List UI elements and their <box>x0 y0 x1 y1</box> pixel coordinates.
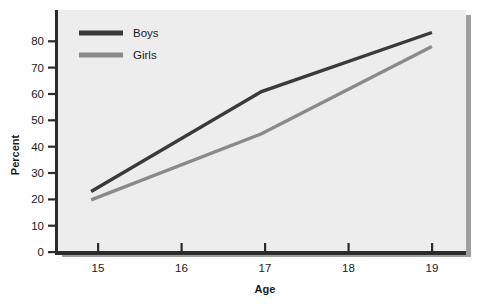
y-axis-ticks <box>48 40 56 253</box>
y-tick-label-80: 80 <box>31 35 44 47</box>
y-tick-label-70: 70 <box>31 62 44 74</box>
x-tick-label-15: 15 <box>92 262 105 274</box>
x-tick-label-16: 16 <box>175 262 188 274</box>
y-tick-label-60: 60 <box>31 88 44 100</box>
y-tick-label-50: 50 <box>31 114 44 126</box>
y-tick-label-30: 30 <box>31 167 44 179</box>
chart-svg: 0 10 20 30 40 50 60 70 80 Percent 15 16 … <box>0 0 495 304</box>
y-tick-label-0: 0 <box>38 246 44 258</box>
x-axis-title: Age <box>255 283 276 295</box>
x-tick-label-18: 18 <box>342 262 355 274</box>
line-chart: 0 10 20 30 40 50 60 70 80 Percent 15 16 … <box>0 0 495 304</box>
legend-swatch-boys <box>79 31 123 36</box>
x-axis-spine <box>55 251 466 255</box>
x-tick-label-19: 19 <box>426 262 439 274</box>
y-tick-label-10: 10 <box>31 220 44 232</box>
y-axis-title: Percent <box>9 134 21 175</box>
x-tick-label-17: 17 <box>259 262 272 274</box>
y-tick-label-40: 40 <box>31 141 44 153</box>
legend-label-boys: Boys <box>133 27 159 39</box>
y-tick-label-20: 20 <box>31 193 44 205</box>
y-axis-spine <box>55 10 58 254</box>
plot-area <box>57 10 466 252</box>
legend-label-girls: Girls <box>133 49 157 61</box>
legend-swatch-girls <box>79 53 123 58</box>
